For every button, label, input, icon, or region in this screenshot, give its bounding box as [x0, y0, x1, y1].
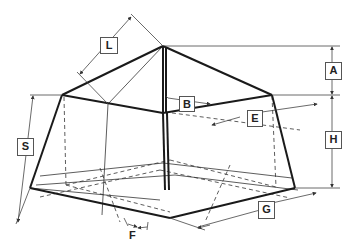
outline-edges	[30, 46, 295, 218]
dimension-label-f: F	[129, 229, 136, 241]
dimension-label-g: G	[258, 201, 275, 219]
dimension-label-e: E	[247, 110, 263, 127]
dimension-label-a: A	[325, 62, 342, 80]
dimension-label-s: S	[17, 138, 34, 156]
dimension-label-l: L	[100, 37, 118, 54]
dimension-lines	[16, 14, 340, 230]
dimension-label-h: H	[325, 131, 342, 149]
pyramid-frustum-diagram	[0, 0, 357, 249]
dimension-label-b: B	[179, 96, 195, 112]
